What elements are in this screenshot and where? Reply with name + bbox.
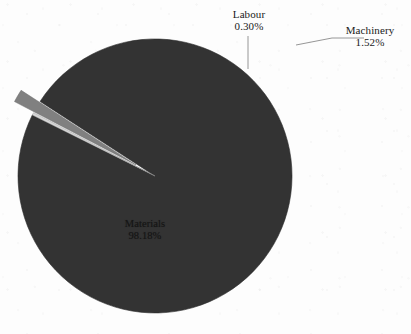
- slice-label-machinery: Machinery 1.52%: [330, 24, 410, 49]
- slice-label-materials-percent: 98.18%: [98, 230, 192, 242]
- slice-label-machinery-percent: 1.52%: [330, 36, 410, 48]
- pie-chart-canvas: [0, 0, 411, 334]
- slice-label-machinery-name: Machinery: [330, 24, 410, 36]
- pie-chart-figure: Materials 98.18% Labour 0.30% Machinery …: [0, 0, 411, 334]
- slice-label-materials: Materials 98.18%: [98, 218, 192, 242]
- slice-label-materials-name: Materials: [98, 218, 192, 230]
- slice-label-labour-percent: 0.30%: [213, 20, 285, 32]
- slice-label-labour: Labour 0.30%: [213, 8, 285, 33]
- slice-label-labour-name: Labour: [213, 8, 285, 20]
